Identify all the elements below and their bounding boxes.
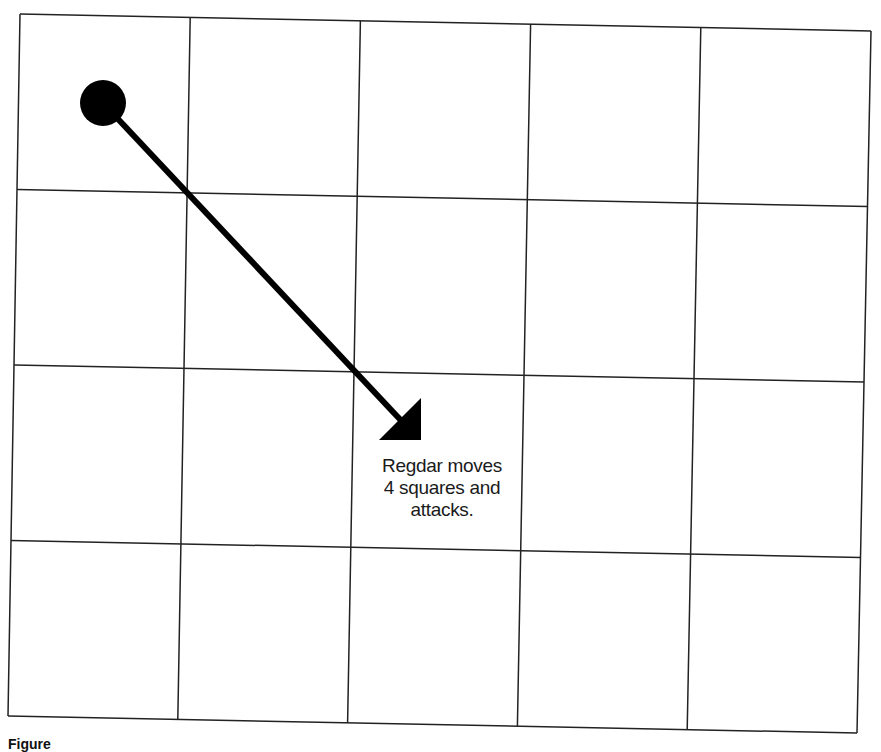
movement-arrow-shaft [103,103,410,430]
label-line-3: attacks. [360,499,524,521]
grid-horizontal-line [11,541,861,558]
label-line-2: 4 squares and [360,477,524,499]
regdar-token-icon [80,80,126,126]
grid-horizontal-line [20,14,871,31]
grid-horizontal-line [17,190,868,207]
grid-horizontal-line [14,365,864,382]
grid-horizontal-line [8,716,857,733]
movement-label: Regdar moves 4 squares and attacks. [360,455,524,521]
label-line-1: Regdar moves [360,455,524,477]
figure-caption: Figure [8,736,51,752]
grid-lines [8,14,871,733]
